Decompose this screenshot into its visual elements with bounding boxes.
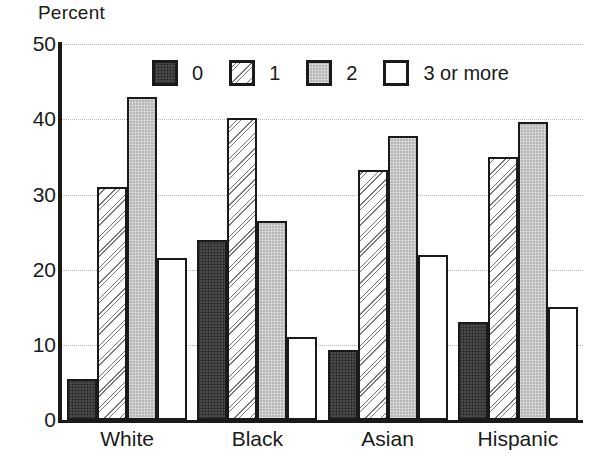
bar-asian-series-3 bbox=[418, 255, 448, 420]
legend-label-0: 0 bbox=[192, 63, 203, 83]
bar-group-black bbox=[192, 44, 322, 420]
bar-group-white bbox=[62, 44, 192, 420]
dark-crosshatch-swatch-icon bbox=[152, 60, 178, 86]
bar-asian-series-1 bbox=[358, 170, 388, 420]
bar-asian-series-0 bbox=[328, 350, 358, 420]
bar-asian-series-2 bbox=[388, 136, 418, 420]
bar-chart: Percent 50 40 30 20 10 0 White Black Asi… bbox=[0, 0, 591, 461]
bar-hispanic-series-1 bbox=[488, 157, 518, 420]
diagonal-hatch-swatch-icon bbox=[229, 60, 255, 86]
y-tick-label-40: 40 bbox=[4, 108, 56, 129]
bar-black-series-3 bbox=[287, 337, 317, 420]
y-tick-label-10: 10 bbox=[4, 334, 56, 355]
y-tick-label-50: 50 bbox=[4, 33, 56, 54]
bar-black-series-2 bbox=[257, 221, 287, 420]
y-axis-tick-labels: 50 40 30 20 10 0 bbox=[0, 0, 56, 461]
bar-black-series-0 bbox=[197, 240, 227, 420]
plot-area bbox=[62, 44, 583, 420]
x-axis-line bbox=[58, 420, 583, 423]
bar-group-hispanic bbox=[453, 44, 583, 420]
white-fill-swatch-icon bbox=[383, 60, 409, 86]
legend-item-0: 0 bbox=[152, 60, 203, 86]
x-axis-tick-labels: White Black Asian Hispanic bbox=[62, 426, 583, 452]
legend-item-1: 1 bbox=[229, 60, 280, 86]
bar-hispanic-series-0 bbox=[458, 322, 488, 420]
bar-white-series-3 bbox=[157, 258, 187, 420]
chart-legend: 0 1 2 3 or more bbox=[152, 60, 509, 86]
bar-white-series-2 bbox=[127, 97, 157, 420]
legend-label-1: 1 bbox=[269, 63, 280, 83]
bar-hispanic-series-3 bbox=[548, 307, 578, 420]
bar-black-series-1 bbox=[227, 118, 257, 420]
x-tick-label-white: White bbox=[62, 426, 192, 452]
legend-item-3: 3 or more bbox=[383, 60, 509, 86]
x-tick-label-hispanic: Hispanic bbox=[453, 426, 583, 452]
legend-label-2: 2 bbox=[346, 63, 357, 83]
y-tick-label-30: 30 bbox=[4, 184, 56, 205]
bar-group-asian bbox=[323, 44, 453, 420]
x-tick-label-black: Black bbox=[192, 426, 322, 452]
bar-white-series-0 bbox=[67, 379, 97, 420]
legend-item-2: 2 bbox=[306, 60, 357, 86]
y-tick-label-0: 0 bbox=[4, 409, 56, 430]
y-tick-label-20: 20 bbox=[4, 259, 56, 280]
legend-label-3: 3 or more bbox=[423, 63, 509, 83]
x-tick-label-asian: Asian bbox=[323, 426, 453, 452]
bar-white-series-1 bbox=[97, 187, 127, 420]
bar-hispanic-series-2 bbox=[518, 122, 548, 420]
bar-groups bbox=[62, 44, 583, 420]
gray-fill-swatch-icon bbox=[306, 60, 332, 86]
